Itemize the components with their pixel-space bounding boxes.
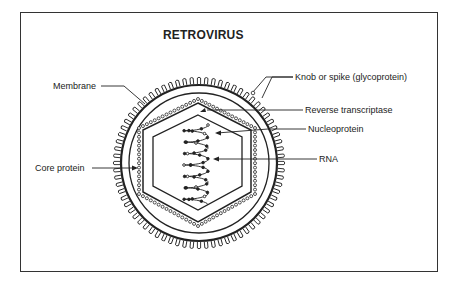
inner-envelope-circle	[129, 93, 269, 233]
knob-glyph	[251, 91, 255, 95]
label-core-protein: Core protein	[35, 163, 85, 173]
label-membrane: Membrane	[53, 81, 96, 91]
label-rna: RNA	[319, 154, 338, 164]
rna-helix	[183, 124, 210, 205]
core-protein-beads	[138, 98, 257, 228]
label-nucleoprotein: Nucleoprotein	[308, 124, 364, 134]
label-reverse-transcriptase: Reverse transcriptase	[305, 105, 393, 115]
retrovirus-diagram	[0, 0, 458, 288]
label-knob-or-spike: Knob or spike (glycoprotein)	[295, 72, 407, 82]
